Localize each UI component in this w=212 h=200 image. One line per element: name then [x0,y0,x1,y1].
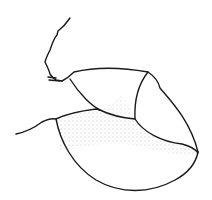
illustration-canvas [0,0,212,200]
antenna-appendage [45,18,70,81]
line-drawing [0,0,212,200]
